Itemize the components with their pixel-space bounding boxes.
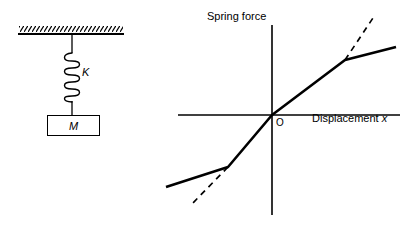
spring-assembly [65, 34, 80, 116]
spring-coil [65, 53, 80, 102]
x-axis-label-text: Displacement [312, 112, 379, 124]
origin-label: O [276, 118, 284, 128]
mass-block: M [47, 115, 100, 136]
fixed-support-group [18, 26, 124, 34]
physics-figure: M K Spring force Displacement x O [0, 0, 408, 228]
y-axis-label: Spring force [207, 11, 266, 22]
mass-label: M [48, 120, 99, 132]
support-hatching [19, 26, 123, 33]
x-axis-symbol: x [382, 112, 388, 124]
spring-constant-label: K [82, 67, 89, 78]
x-axis-label: Displacement x [312, 113, 387, 124]
